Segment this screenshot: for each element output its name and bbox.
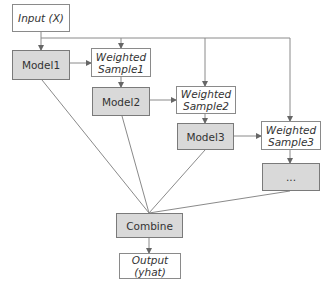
output-line1: Output [132,254,168,266]
output-line2: (yhat) [134,266,166,278]
combine-label: Combine [126,220,173,232]
weighted-sample1-node: Weighted Sample1 [91,48,151,77]
model3-node: Model3 [177,123,234,150]
input-label: Input (X) [18,12,64,24]
model3-label: Model3 [186,131,224,143]
ws3-line1: Weighted [266,124,316,136]
weighted-sample3-node: Weighted Sample3 [261,121,321,150]
model1-node: Model1 [12,50,70,80]
more-models-node: ... [262,163,320,191]
model1-label: Model1 [22,59,60,71]
ws1-line1: Weighted [96,51,146,63]
ws2-line1: Weighted [181,88,231,100]
weighted-sample2-node: Weighted Sample2 [176,86,236,114]
more-label: ... [286,171,296,183]
ws1-line2: Sample1 [98,63,144,75]
model2-node: Model2 [92,87,150,116]
ws2-line2: Sample2 [183,100,229,112]
model2-label: Model2 [102,96,140,108]
output-node: Output (yhat) [119,253,181,279]
combine-node: Combine [116,213,183,238]
input-node: Input (X) [12,4,70,32]
ws3-line2: Sample3 [268,136,314,148]
